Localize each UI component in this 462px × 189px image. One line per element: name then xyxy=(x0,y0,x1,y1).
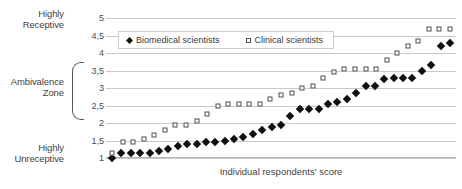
y-axis-tick-label: 1 xyxy=(99,153,104,163)
data-point-biomedical xyxy=(117,149,125,157)
y-axis-tick-label: 4 xyxy=(99,48,104,58)
data-point-biomedical xyxy=(446,38,454,46)
data-point-clinical xyxy=(448,26,453,31)
data-point-clinical xyxy=(331,70,336,75)
data-point-biomedical xyxy=(408,73,416,81)
data-point-clinical xyxy=(416,38,421,43)
data-point-clinical xyxy=(205,112,210,117)
data-point-clinical xyxy=(321,75,326,80)
data-point-biomedical xyxy=(436,42,444,50)
data-point-biomedical xyxy=(361,82,369,90)
x-axis-title: Individual respondents' score xyxy=(106,166,456,177)
data-point-clinical xyxy=(131,140,136,145)
data-point-biomedical xyxy=(220,136,228,144)
data-point-clinical xyxy=(236,101,241,106)
data-point-clinical xyxy=(110,150,115,155)
data-point-clinical xyxy=(268,96,273,101)
gridline xyxy=(106,88,456,89)
data-point-clinical xyxy=(152,133,157,138)
data-point-biomedical xyxy=(352,89,360,97)
y-axis-tick-label: 1,5 xyxy=(91,136,104,146)
y-axis-tick-label: 2,5 xyxy=(91,101,104,111)
gridline xyxy=(106,158,456,159)
data-point-clinical xyxy=(141,136,146,141)
filled-diamond-icon xyxy=(126,36,133,43)
y-axis-tick-label: 4,5 xyxy=(91,31,104,41)
y-axis-tick-label: 3 xyxy=(99,83,104,93)
data-point-clinical xyxy=(194,119,199,124)
data-point-biomedical xyxy=(173,142,181,150)
data-point-biomedical xyxy=(427,61,435,69)
data-point-biomedical xyxy=(371,82,379,90)
scatter-chart: Highly Receptive Ambivalence Zone Highly… xyxy=(0,0,462,189)
data-point-clinical xyxy=(300,86,305,91)
data-point-biomedical xyxy=(127,149,135,157)
data-point-biomedical xyxy=(155,147,163,155)
data-point-clinical xyxy=(426,26,431,31)
data-point-biomedical xyxy=(164,145,172,153)
gridline xyxy=(106,53,456,54)
gridline xyxy=(106,71,456,72)
y-axis-ticks: 11,522,533,544,55 xyxy=(84,0,104,189)
data-point-biomedical xyxy=(389,73,397,81)
data-point-biomedical xyxy=(249,129,257,137)
ambivalence-zone-bracket xyxy=(72,62,84,120)
data-point-biomedical xyxy=(324,100,332,108)
data-point-clinical xyxy=(437,26,442,31)
legend-item-clinical-scientists: Clinical scientists xyxy=(246,35,324,45)
gridline xyxy=(106,106,456,107)
data-point-clinical xyxy=(342,66,347,71)
data-point-clinical xyxy=(215,103,220,108)
data-point-biomedical xyxy=(136,149,144,157)
y-axis-tick-label: 2 xyxy=(99,118,104,128)
data-point-clinical xyxy=(310,84,315,89)
legend-item-biomedical-scientists: Biomedical scientists xyxy=(127,35,220,45)
zone-label-ambivalence: Ambivalence Zone xyxy=(0,76,64,98)
data-point-clinical xyxy=(226,101,231,106)
data-point-clinical xyxy=(384,58,389,63)
data-point-biomedical xyxy=(211,138,219,146)
data-point-clinical xyxy=(279,93,284,98)
data-point-clinical xyxy=(173,122,178,127)
data-point-clinical xyxy=(120,140,125,145)
data-point-clinical xyxy=(247,101,252,106)
data-point-biomedical xyxy=(258,126,266,134)
data-point-biomedical xyxy=(277,121,285,129)
open-square-icon xyxy=(246,38,251,43)
data-point-biomedical xyxy=(230,135,238,143)
legend-label-clinical-scientists: Clinical scientists xyxy=(255,35,324,45)
data-point-biomedical xyxy=(202,138,210,146)
zone-label-highly-unreceptive: Highly Unreceptive xyxy=(0,142,64,164)
legend-label-biomedical-scientists: Biomedical scientists xyxy=(136,35,220,45)
x-axis-line xyxy=(106,157,456,158)
chart-legend: Biomedical scientists Clinical scientist… xyxy=(118,31,334,49)
data-point-clinical xyxy=(257,101,262,106)
zone-label-highly-receptive: Highly Receptive xyxy=(0,8,64,30)
data-point-clinical xyxy=(183,122,188,127)
data-point-clinical xyxy=(363,66,368,71)
data-point-clinical xyxy=(405,44,410,49)
data-point-clinical xyxy=(395,51,400,56)
data-point-clinical xyxy=(374,66,379,71)
data-point-biomedical xyxy=(380,75,388,83)
data-point-clinical xyxy=(289,91,294,96)
data-point-biomedical xyxy=(286,112,294,120)
data-point-biomedical xyxy=(145,149,153,157)
data-point-biomedical xyxy=(418,66,426,74)
gridline xyxy=(106,18,456,19)
data-point-biomedical xyxy=(342,94,350,102)
y-axis-tick-label: 3,5 xyxy=(91,66,104,76)
gridline xyxy=(106,141,456,142)
data-point-clinical xyxy=(162,128,167,133)
y-axis-tick-label: 5 xyxy=(99,13,104,23)
data-point-clinical xyxy=(352,66,357,71)
data-point-biomedical xyxy=(399,73,407,81)
